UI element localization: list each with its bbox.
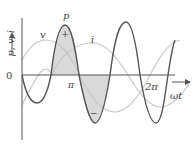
label-i: i — [91, 34, 94, 45]
y-axis-label: p, v, i — [5, 30, 16, 57]
tick-label-2pi: 2π — [144, 81, 158, 92]
label-v: v — [40, 29, 46, 40]
origin-label: 0 — [6, 70, 12, 81]
label-p: p — [63, 10, 70, 21]
x-axis-label: ωt — [170, 90, 183, 101]
tick-label-pi: π — [67, 80, 75, 90]
power-waveform-diagram: p, v, i 0 ωt π 2π p v i + − — [0, 0, 193, 145]
minus-sign: − — [90, 108, 98, 118]
plus-sign: + — [61, 28, 69, 39]
